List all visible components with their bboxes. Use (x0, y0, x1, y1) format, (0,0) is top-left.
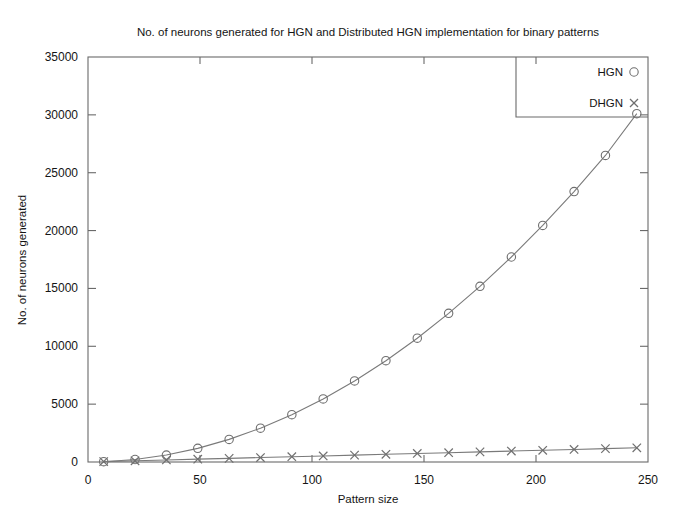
y-tick-label: 25000 (45, 166, 79, 180)
chart-figure: No. of neurons generated for HGN and Dis… (0, 0, 686, 524)
legend-item-hgn-label: HGN (597, 66, 623, 78)
x-tick-label: 150 (414, 473, 434, 487)
y-tick-label: 0 (71, 455, 78, 469)
x-tick-label: 50 (193, 473, 207, 487)
chart-background (0, 0, 686, 524)
y-tick-label: 10000 (45, 339, 79, 353)
x-axis-title: Pattern size (338, 493, 399, 505)
y-tick-label: 5000 (51, 397, 78, 411)
x-tick-label: 0 (85, 473, 92, 487)
y-axis-title: No. of neurons generated (16, 195, 28, 325)
chart-canvas: No. of neurons generated for HGN and Dis… (0, 0, 686, 524)
x-tick-label: 200 (526, 473, 546, 487)
legend-item-dhgn-label: DHGN (589, 97, 623, 109)
y-tick-label: 35000 (45, 50, 79, 64)
chart-title: No. of neurons generated for HGN and Dis… (137, 26, 599, 38)
y-tick-label: 15000 (45, 281, 79, 295)
x-tick-label: 100 (302, 473, 322, 487)
y-tick-label: 20000 (45, 224, 79, 238)
y-tick-label: 30000 (45, 108, 79, 122)
x-tick-label: 250 (638, 473, 658, 487)
